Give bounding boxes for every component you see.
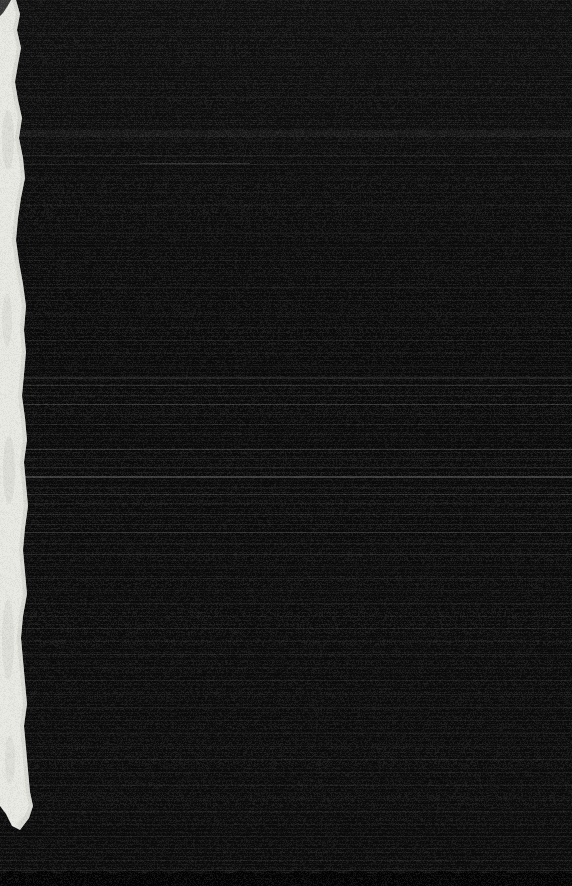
scan-line	[0, 424, 572, 425]
scan-line	[0, 524, 572, 525]
scan-line	[0, 366, 572, 367]
scan-line	[0, 164, 572, 165]
scan-line	[0, 641, 572, 642]
scan-line	[0, 110, 572, 111]
scan-line	[0, 707, 572, 708]
scan-line	[0, 14, 572, 15]
scan-line	[0, 6, 572, 7]
scan-line	[0, 616, 572, 617]
scan-line	[0, 554, 572, 555]
scan-line	[0, 694, 572, 695]
scan-line	[0, 83, 572, 84]
scan-line	[0, 772, 572, 773]
scan-line	[0, 97, 572, 98]
scan-line	[0, 566, 572, 567]
scan-line	[0, 487, 572, 488]
scan-line	[0, 274, 572, 275]
scan-line	[0, 300, 572, 301]
scan-line	[0, 860, 572, 861]
scan-line	[0, 503, 572, 504]
scan-line	[0, 220, 572, 221]
scan-line	[0, 260, 572, 261]
scan-line	[0, 122, 572, 123]
scan-line	[0, 287, 572, 288]
scan-line	[0, 494, 572, 495]
paper-mottle-smudge	[2, 600, 14, 680]
scan-line	[0, 70, 572, 71]
scan-line	[0, 404, 572, 405]
scan-line	[0, 385, 572, 386]
scan-line	[0, 720, 572, 721]
scan-line	[0, 759, 572, 760]
scan-line	[0, 811, 572, 812]
scan-line	[0, 22, 572, 23]
scan-line	[0, 848, 572, 849]
scan-line	[0, 785, 572, 786]
scan-line	[0, 141, 572, 142]
scan-line	[0, 798, 572, 799]
scan-line	[0, 870, 572, 871]
scan-line	[0, 680, 572, 681]
scan-line	[0, 314, 572, 315]
paper-mottle-smudge	[2, 294, 12, 346]
scan-line	[0, 327, 572, 328]
scan-line	[0, 192, 572, 193]
scan-line	[0, 178, 572, 179]
scan-line	[0, 746, 572, 747]
scan-line	[0, 836, 572, 837]
scan-line	[0, 590, 572, 591]
scan-line	[0, 205, 572, 206]
scan-line	[0, 58, 572, 59]
scan-line	[0, 233, 572, 234]
scan-line	[0, 733, 572, 734]
scan-line	[0, 458, 572, 459]
scan-line	[0, 47, 572, 48]
scan-line	[0, 824, 572, 825]
scan-line	[0, 628, 572, 629]
scan-line	[0, 578, 572, 579]
paper-mottle-smudge	[5, 736, 15, 784]
scan-line	[0, 353, 572, 354]
scan-line	[0, 340, 572, 341]
scan-line	[0, 603, 572, 604]
scan-line	[0, 532, 572, 533]
page-edge-strip	[0, 0, 44, 886]
scan-line	[0, 414, 572, 415]
scan-line	[0, 467, 572, 468]
scan-line	[0, 247, 572, 248]
scan-line	[0, 130, 572, 137]
scan-line	[0, 449, 572, 450]
scan-line	[0, 667, 572, 668]
scan-line	[0, 434, 572, 435]
scan-line	[0, 654, 572, 655]
paper-mottle-smudge	[3, 436, 15, 504]
scan-line-streaks	[0, 0, 572, 886]
scanned-book-cover	[0, 0, 572, 886]
scan-line	[0, 34, 572, 35]
scan-line	[0, 377, 572, 379]
scan-line	[0, 514, 572, 515]
scan-line	[0, 543, 572, 544]
paper-mottle-smudge	[2, 110, 14, 170]
scan-line	[0, 476, 572, 478]
scan-line	[0, 155, 572, 156]
scan-line	[0, 395, 572, 396]
